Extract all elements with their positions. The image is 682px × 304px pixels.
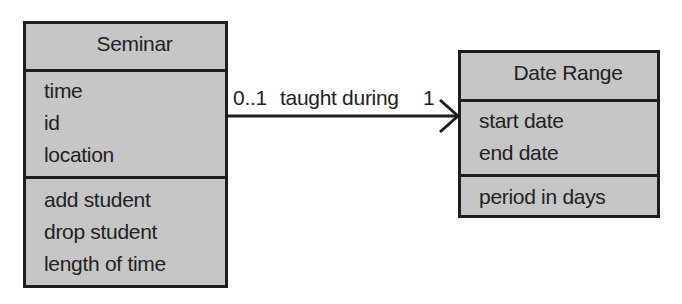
operations-compartment: period in days — [461, 174, 657, 213]
operation: drop student — [44, 216, 225, 248]
operation: add student — [44, 184, 225, 216]
attribute: time — [44, 75, 225, 107]
class-name: Date Range — [479, 55, 657, 85]
source-multiplicity: 0..1 — [233, 86, 267, 110]
attribute: location — [44, 139, 225, 171]
attribute: end date — [479, 137, 657, 169]
class-seminar[interactable]: Seminar time id location add student dro… — [23, 21, 228, 288]
attribute: start date — [479, 105, 657, 137]
operation: length of time — [44, 248, 225, 280]
attribute: id — [44, 107, 225, 139]
association-label: taught during — [280, 86, 399, 110]
class-name-compartment: Seminar — [26, 24, 225, 69]
class-date-range[interactable]: Date Range start date end date period in… — [458, 50, 660, 218]
attributes-compartment: start date end date — [461, 99, 657, 174]
attributes-compartment: time id location — [26, 69, 225, 176]
operation: period in days — [479, 181, 657, 213]
target-multiplicity: 1 — [423, 86, 434, 110]
class-name-compartment: Date Range — [461, 53, 657, 99]
class-name: Seminar — [44, 26, 225, 56]
operations-compartment: add student drop student length of time — [26, 176, 225, 286]
